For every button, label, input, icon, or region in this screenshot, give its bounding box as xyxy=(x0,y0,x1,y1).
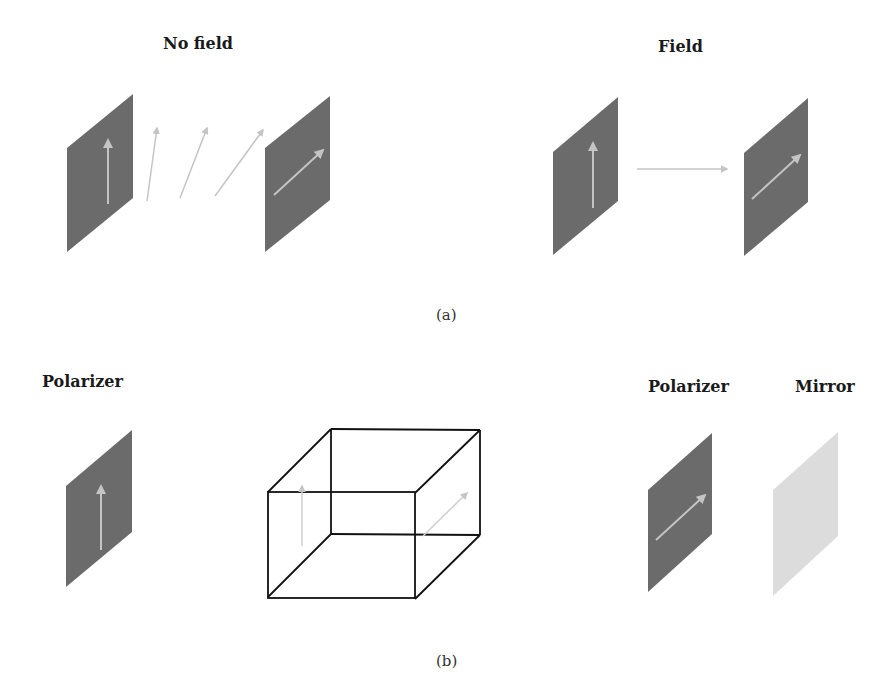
diagonal-polarization-arrow-in-cell xyxy=(423,493,467,536)
twisting-arrow-3 xyxy=(215,130,263,196)
field-scene xyxy=(553,97,808,256)
input-polarizer xyxy=(66,430,132,587)
lc-cell-cube xyxy=(268,429,480,599)
mirror-plate xyxy=(773,432,838,596)
polarizer-plate-1 xyxy=(67,94,133,252)
polarizer-plate-6 xyxy=(648,433,712,592)
twisting-arrow-2 xyxy=(180,128,207,198)
no-field-scene xyxy=(67,94,330,252)
polarizer-plate-3 xyxy=(553,97,618,255)
output-polarizer xyxy=(648,433,712,592)
twisting-arrow-1 xyxy=(147,128,157,201)
polarizer-plate-5 xyxy=(66,430,132,587)
